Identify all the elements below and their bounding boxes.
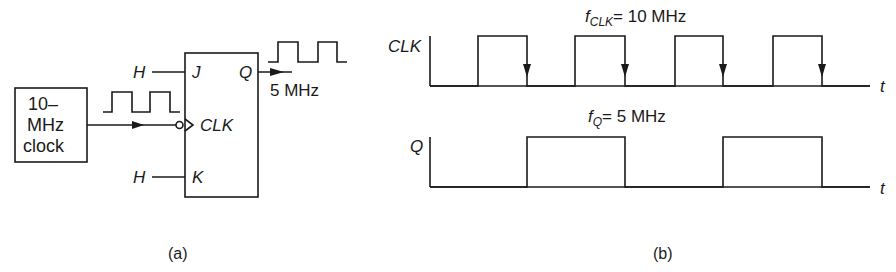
falling-edge-arrow-icon: [523, 64, 531, 77]
clk-pin-label: CLK: [200, 117, 233, 134]
clock-box-line2: MHz: [27, 116, 64, 134]
output-frequency-label: 5 MHz: [270, 82, 319, 99]
clock-box-line1: 10–: [28, 95, 58, 113]
clk-axis-label: CLK: [388, 38, 421, 55]
clk-frequency-title: fCLK= 10 MHz: [585, 8, 686, 25]
q-pin-label: Q: [239, 64, 252, 81]
k-pin-label: K: [192, 169, 203, 186]
q-output-arrow-icon: [270, 68, 284, 76]
input-waveform: [103, 92, 180, 112]
q-time-label: t: [880, 180, 885, 197]
falling-edge-arrow-icon: [818, 64, 826, 77]
q-frequency-title: fQ= 5 MHz: [588, 108, 666, 125]
clock-line-arrow-icon: [132, 121, 144, 129]
q-axis-label: Q: [410, 138, 423, 155]
clock-box-line3: clock: [23, 137, 64, 155]
inversion-bubble: [176, 122, 183, 129]
diagram-canvas: [0, 0, 896, 272]
q-waveform: [430, 137, 870, 187]
clk-waveform: [430, 36, 870, 86]
k-input-value: H: [133, 169, 145, 186]
clk-time-label: t: [880, 78, 885, 95]
caption-b: (b): [653, 246, 673, 262]
caption-a: (a): [168, 246, 188, 262]
output-waveform: [268, 42, 347, 62]
falling-edge-arrow-icon: [621, 64, 629, 77]
j-pin-label: J: [192, 64, 201, 81]
falling-edge-arrow-icon: [719, 64, 727, 77]
clock-edge-triangle: [185, 119, 193, 131]
j-input-value: H: [133, 64, 145, 81]
